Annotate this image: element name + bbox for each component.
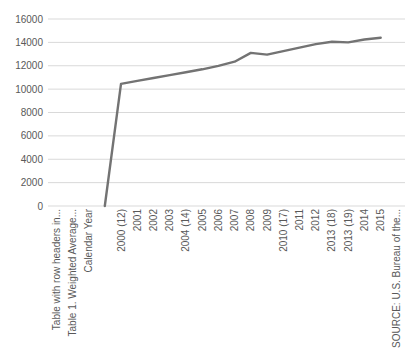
series-line bbox=[105, 38, 381, 206]
x-axis-tick-label: 2013 (18) bbox=[326, 209, 337, 252]
x-axis-tick-label: 2003 bbox=[164, 209, 175, 232]
x-axis-tick-label: 2008 bbox=[245, 209, 256, 232]
x-axis-tick-label: 2001 bbox=[132, 209, 143, 232]
y-axis-tick-label: 2000 bbox=[21, 177, 44, 188]
x-axis-tick-label: Calendar Year bbox=[83, 208, 94, 272]
y-axis-tick-label: 12000 bbox=[15, 60, 43, 71]
y-axis-tick-label: 4000 bbox=[21, 154, 44, 165]
y-axis-tick-label: 6000 bbox=[21, 130, 44, 141]
x-axis-tick-label: Table with row headers in... bbox=[51, 209, 62, 330]
y-axis-tick-label: 0 bbox=[37, 201, 43, 212]
x-axis-tick-label: 2006 bbox=[213, 209, 224, 232]
x-axis-tick-label: 2005 bbox=[197, 209, 208, 232]
line-chart: 0200040006000800010000120001400016000Tab… bbox=[0, 0, 417, 348]
y-axis-tick-label: 16000 bbox=[15, 14, 43, 25]
x-axis-tick-label: 2015 bbox=[375, 209, 386, 232]
x-axis-tick-label: 2009 bbox=[262, 209, 273, 232]
y-axis-tick-label: 10000 bbox=[15, 84, 43, 95]
chart-canvas: 0200040006000800010000120001400016000Tab… bbox=[0, 0, 417, 348]
x-axis-tick-label: 2004 (14) bbox=[180, 209, 191, 252]
x-axis-tick-label: 2014 bbox=[359, 209, 370, 232]
x-axis-tick-label: 2012 bbox=[310, 209, 321, 232]
x-axis-tick-label: 2002 bbox=[148, 209, 159, 232]
x-axis-tick-label: 2010 (17) bbox=[278, 209, 289, 252]
x-axis-tick-label: Table 1. Weighted Average... bbox=[67, 209, 78, 337]
x-axis-tick-label: 2000 (12) bbox=[116, 209, 127, 252]
y-axis-tick-label: 14000 bbox=[15, 37, 43, 48]
y-axis-tick-label: 8000 bbox=[21, 107, 44, 118]
x-axis-tick-label: SOURCE: U.S. Bureau of the... bbox=[391, 209, 402, 348]
x-axis-tick-label: 2007 bbox=[229, 209, 240, 232]
x-axis-tick-label: 2011 bbox=[294, 209, 305, 231]
x-axis-tick-label: 2013 (19) bbox=[343, 209, 354, 252]
